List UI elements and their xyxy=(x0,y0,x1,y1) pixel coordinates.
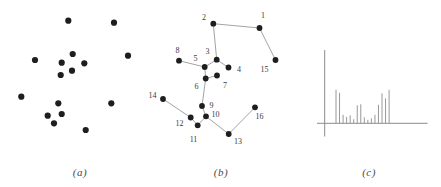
mst-node xyxy=(199,103,205,109)
scatter-point xyxy=(59,111,65,117)
mst-node xyxy=(214,73,220,79)
scatter-point xyxy=(58,72,64,78)
mst-node xyxy=(214,57,220,63)
scatter-point xyxy=(55,100,61,106)
scatter-point xyxy=(59,60,65,66)
mst-node-label: 9 xyxy=(210,101,214,110)
mst-node xyxy=(226,131,232,137)
mst-edge xyxy=(213,24,216,60)
panel-a-caption: (a) xyxy=(73,166,87,178)
mst-edge xyxy=(229,107,255,134)
mst-node-label: 8 xyxy=(176,46,180,55)
mst-edge xyxy=(260,28,276,60)
panel-c-caption: (c) xyxy=(362,166,376,178)
mst-node xyxy=(202,64,208,70)
panel-b-mst: 12345678910111213141516 xyxy=(149,11,279,146)
scatter-point xyxy=(70,51,76,57)
mst-node xyxy=(188,115,194,121)
scatter-point xyxy=(69,68,75,74)
mst-node xyxy=(273,57,279,63)
mst-edge xyxy=(206,116,229,134)
figure-svg: 12345678910111213141516 xyxy=(0,0,441,187)
mst-node xyxy=(257,25,263,31)
panel-b-caption: (b) xyxy=(214,166,228,178)
mst-node-label: 11 xyxy=(190,135,198,144)
mst-node-label: 14 xyxy=(149,91,157,100)
mst-edge xyxy=(213,24,259,28)
panel-a-scatter xyxy=(18,18,131,134)
scatter-point xyxy=(125,53,131,59)
scatter-point xyxy=(83,127,89,133)
mst-edge xyxy=(202,79,206,107)
mst-node-label: 15 xyxy=(261,65,269,74)
mst-node xyxy=(252,104,258,110)
mst-edge xyxy=(163,99,191,118)
mst-node-label: 2 xyxy=(202,13,206,22)
mst-node-label: 3 xyxy=(206,47,210,56)
scatter-point xyxy=(45,113,51,119)
mst-node-label: 7 xyxy=(223,81,227,90)
figure: 12345678910111213141516 (a) (b) (c) xyxy=(0,0,441,187)
scatter-point xyxy=(18,94,24,100)
mst-node xyxy=(203,76,209,82)
mst-node-label: 16 xyxy=(256,112,264,121)
mst-node-label: 4 xyxy=(237,65,241,74)
mst-node xyxy=(195,122,201,128)
scatter-point xyxy=(108,100,114,106)
mst-node-label: 5 xyxy=(194,54,198,63)
scatter-point xyxy=(81,60,87,66)
scatter-point xyxy=(51,120,57,126)
mst-edge xyxy=(179,61,205,67)
mst-node xyxy=(210,21,216,27)
scatter-point xyxy=(32,57,38,63)
mst-node xyxy=(203,113,209,119)
mst-node-label: 10 xyxy=(212,110,220,119)
mst-node xyxy=(176,58,182,64)
scatter-point xyxy=(111,20,117,26)
mst-node xyxy=(160,96,166,102)
panel-c-stem-plot xyxy=(317,50,428,137)
mst-node-label: 6 xyxy=(195,82,199,91)
scatter-point xyxy=(65,18,71,24)
mst-node-label: 13 xyxy=(234,137,242,146)
mst-node-label: 12 xyxy=(176,119,184,128)
mst-node xyxy=(226,65,232,71)
mst-node-label: 1 xyxy=(261,11,265,20)
